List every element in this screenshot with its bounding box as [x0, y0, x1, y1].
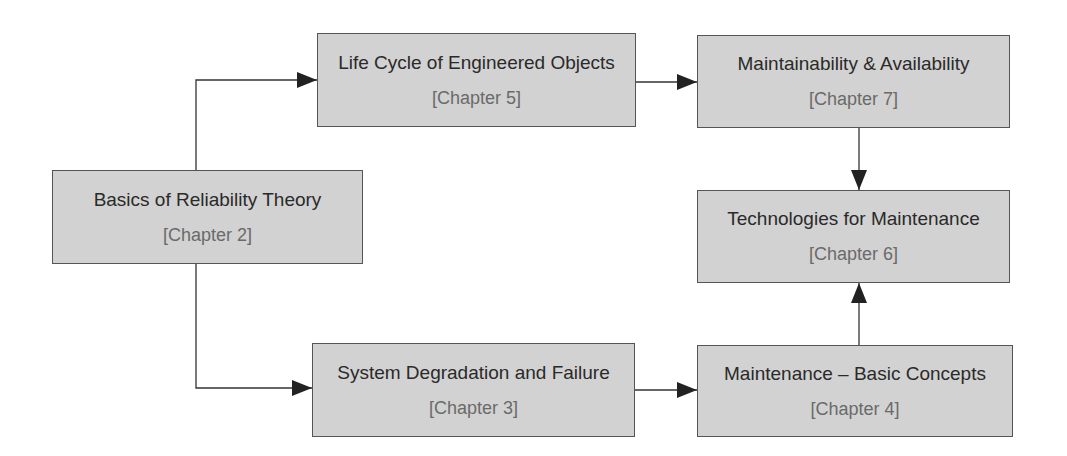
node-maintenance-basic-concepts: Maintenance – Basic Concepts [Chapter 4]: [697, 345, 1013, 437]
node-title: Technologies for Maintenance: [727, 207, 979, 231]
node-life-cycle-of-engineered-objects: Life Cycle of Engineered Objects [Chapte…: [317, 33, 636, 127]
node-title: Life Cycle of Engineered Objects: [338, 51, 615, 75]
node-title: Maintainability & Availability: [738, 52, 970, 76]
node-maintainability-and-availability: Maintainability & Availability [Chapter …: [697, 35, 1010, 128]
edge-basics-lifecycle: [196, 80, 317, 170]
node-chapter: [Chapter 2]: [163, 223, 252, 247]
node-title: Basics of Reliability Theory: [94, 188, 322, 212]
node-chapter: [Chapter 7]: [809, 87, 898, 111]
node-system-degradation-and-failure: System Degradation and Failure [Chapter …: [312, 343, 635, 437]
node-basics-of-reliability-theory: Basics of Reliability Theory [Chapter 2]: [52, 170, 363, 264]
node-technologies-for-maintenance: Technologies for Maintenance [Chapter 6]: [697, 190, 1010, 283]
edge-basics-degradation: [196, 264, 312, 388]
node-chapter: [Chapter 6]: [809, 242, 898, 266]
node-title: Maintenance – Basic Concepts: [724, 362, 986, 386]
node-chapter: [Chapter 3]: [429, 396, 518, 420]
node-title: System Degradation and Failure: [337, 361, 609, 385]
node-chapter: [Chapter 4]: [810, 397, 899, 421]
node-chapter: [Chapter 5]: [432, 86, 521, 110]
